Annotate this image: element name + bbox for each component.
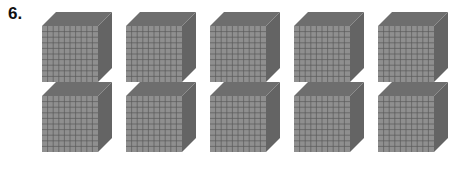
thousand-cube [42, 12, 114, 88]
thousand-cube [126, 82, 198, 158]
thousand-cube [42, 82, 114, 158]
thousand-cube [210, 82, 282, 158]
thousand-cube [294, 12, 366, 88]
thousand-cube [294, 82, 366, 158]
thousand-cube [210, 12, 282, 88]
thousand-cube [378, 12, 450, 88]
thousand-cube [126, 12, 198, 88]
thousand-cube [378, 82, 450, 158]
problem-number: 6. [8, 4, 22, 24]
